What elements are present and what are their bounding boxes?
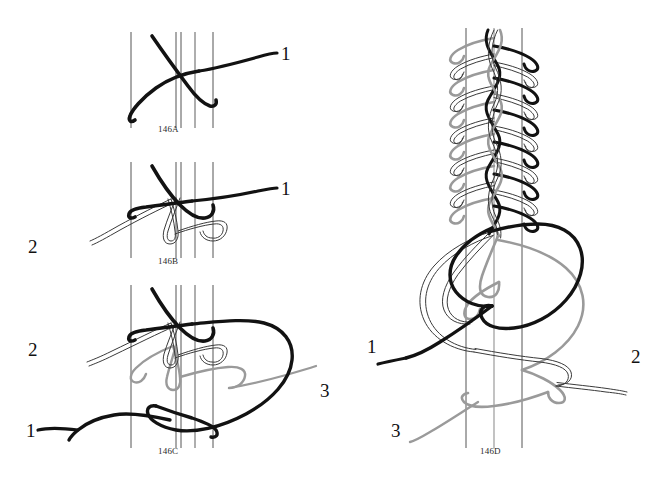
label-146D-strand-1: 1 xyxy=(367,337,377,356)
label-146D-strand-2: 2 xyxy=(631,347,641,366)
panel-146D-braid xyxy=(450,30,537,238)
figure-sheet: 146A 146B 146C 146D 1 1 2 1 2 3 1 2 3 xyxy=(0,0,672,489)
label-146B-strand-2: 2 xyxy=(28,237,38,256)
label-146C-strand-3: 3 xyxy=(320,381,330,400)
label-146B-strand-1: 1 xyxy=(281,179,291,198)
caption-146C: 146C xyxy=(158,446,178,456)
label-146A-strand-1: 1 xyxy=(281,44,291,63)
label-146C-strand-2: 2 xyxy=(28,340,38,359)
panel-146C-strand-1-black-upper xyxy=(38,289,292,440)
panel-146A-strand-1-black xyxy=(129,36,277,121)
panel-146D-left-loops xyxy=(450,38,494,224)
label-146C-strand-1: 1 xyxy=(26,421,36,440)
label-146D-strand-3: 3 xyxy=(391,421,401,440)
panel-146B-strand-1-black xyxy=(129,166,277,218)
caption-146D: 146D xyxy=(480,446,501,456)
panel-146C-core xyxy=(131,285,213,448)
caption-146B: 146B xyxy=(158,256,178,266)
panel-146D-strand-3-gray xyxy=(410,236,583,442)
panel-146A-artwork xyxy=(0,0,672,489)
caption-146A: 146A xyxy=(158,124,179,134)
